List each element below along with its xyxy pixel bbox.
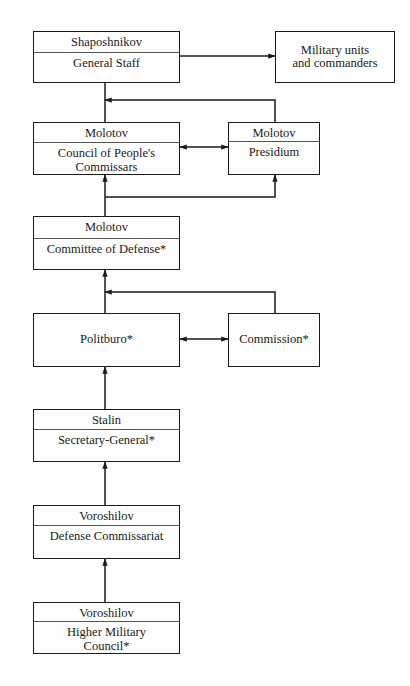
node-label: Commission*	[239, 333, 308, 347]
title-line-1: Higher Military	[34, 626, 179, 640]
arrow-committee-to-presidium	[105, 175, 275, 197]
node-title: Secretary-General*	[34, 430, 179, 461]
node-defense-commissariat: Voroshilov Defense Commissariat	[33, 505, 180, 559]
node-general-staff: Shaposhnikov General Staff	[33, 31, 180, 83]
node-committee-of-defense: Molotov Committee of Defense*	[33, 216, 180, 270]
node-title: Committee of Defense*	[34, 239, 179, 269]
node-person: Shaposhnikov	[34, 32, 179, 53]
node-label: Politburo*	[80, 333, 133, 347]
node-person: Voroshilov	[34, 603, 179, 622]
node-person: Molotov	[34, 123, 179, 143]
node-council-of-peoples-commissars: Molotov Council of People's Commissars	[33, 122, 180, 175]
title-line-1: Council of People's	[34, 147, 179, 161]
node-military-units: Military units and commanders	[275, 31, 395, 83]
node-title: Council of People's Commissars	[34, 143, 179, 174]
node-title: Defense Commissariat	[34, 526, 179, 558]
arrow-commission-to-committee	[105, 292, 275, 313]
title-line-2: Commissars	[34, 161, 179, 175]
org-diagram: Shaposhnikov General Staff Military unit…	[0, 0, 410, 686]
node-title: General Staff	[34, 53, 179, 82]
node-person: Molotov	[229, 123, 319, 142]
node-commission: Commission*	[228, 313, 320, 367]
node-presidium: Molotov Presidium	[228, 122, 320, 175]
node-person: Voroshilov	[34, 506, 179, 526]
title-line-2: Council*	[34, 640, 179, 654]
node-higher-military-council: Voroshilov Higher Military Council*	[33, 602, 180, 654]
node-secretary-general: Stalin Secretary-General*	[33, 409, 180, 462]
node-title: Higher Military Council*	[34, 622, 179, 653]
label-line-1: Military units	[292, 44, 377, 58]
label-line-2: and commanders	[292, 57, 377, 71]
node-person: Molotov	[34, 217, 179, 239]
arrow-presidium-to-general-staff	[105, 100, 275, 122]
node-label: Military units and commanders	[292, 44, 377, 71]
node-politburo: Politburo*	[33, 313, 180, 367]
node-title: Presidium	[229, 142, 319, 174]
node-person: Stalin	[34, 410, 179, 430]
